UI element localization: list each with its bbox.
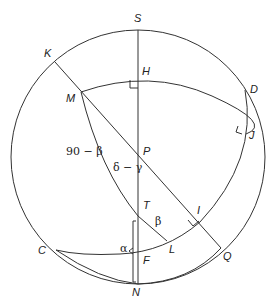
label-N: N [132, 286, 140, 298]
label-J: J [248, 129, 255, 141]
label-K: K [44, 47, 52, 59]
label-L: L [169, 243, 175, 255]
label-I: I [197, 204, 200, 216]
sphere-diagram: S K H D M J P T I C L Q F N 90 − β δ − γ… [0, 0, 273, 308]
label-beta: β [155, 215, 161, 228]
label-M: M [66, 92, 76, 104]
label-D: D [250, 83, 258, 95]
label-H: H [142, 65, 150, 77]
label-F: F [143, 254, 151, 266]
label-alpha: α [120, 242, 128, 255]
arc-mhd [81, 81, 255, 134]
right-angle-j [236, 126, 242, 134]
arc-djlc [56, 90, 247, 255]
label-T: T [143, 199, 151, 211]
label-C: C [38, 244, 46, 256]
label-Q: Q [223, 250, 232, 262]
label-P: P [143, 145, 151, 157]
label-S: S [134, 12, 142, 24]
label-90-minus-beta: 90 − β [66, 145, 103, 158]
label-delta-minus-gamma: δ − γ [113, 161, 143, 174]
